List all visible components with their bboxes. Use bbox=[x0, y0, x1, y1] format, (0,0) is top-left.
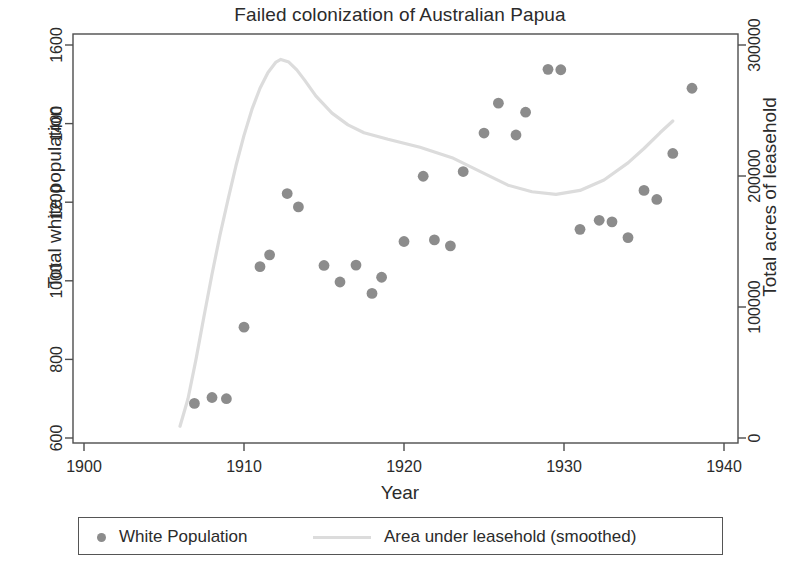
plot-area: 1900191019201930194060080010001200140016… bbox=[0, 0, 800, 563]
data-point bbox=[282, 188, 293, 199]
y-tick-label-left: 800 bbox=[48, 346, 65, 373]
series-line-area-leasehold bbox=[180, 59, 673, 426]
data-point bbox=[376, 272, 387, 283]
data-point bbox=[607, 216, 618, 227]
x-tick-label: 1910 bbox=[226, 458, 262, 475]
data-point bbox=[651, 194, 662, 205]
data-point bbox=[351, 260, 362, 271]
data-point bbox=[445, 240, 456, 251]
x-tick-label: 1940 bbox=[706, 458, 742, 475]
data-point bbox=[667, 148, 678, 159]
legend-item-area-leasehold: Area under leasehold (smoothed) bbox=[313, 518, 636, 556]
data-point bbox=[458, 166, 469, 177]
x-tick-label: 1900 bbox=[66, 458, 102, 475]
y-tick-label-right: 0 bbox=[746, 433, 763, 442]
y-tick-label-left: 600 bbox=[48, 425, 65, 452]
data-point bbox=[239, 322, 250, 333]
data-point bbox=[479, 128, 490, 139]
data-point bbox=[575, 224, 586, 235]
legend: White Population Area under leasehold (s… bbox=[78, 517, 723, 555]
data-point bbox=[189, 398, 200, 409]
legend-line-icon bbox=[313, 536, 371, 539]
data-point bbox=[429, 235, 440, 246]
data-point bbox=[221, 393, 232, 404]
data-point bbox=[207, 392, 218, 403]
data-point bbox=[543, 64, 554, 75]
chart-figure: Failed colonization of Australian Papua … bbox=[0, 0, 800, 563]
data-point bbox=[255, 261, 266, 272]
legend-label-white-population: White Population bbox=[119, 527, 248, 547]
x-tick-label: 1920 bbox=[386, 458, 422, 475]
data-point bbox=[623, 232, 634, 243]
data-point bbox=[367, 288, 378, 299]
legend-dot-icon bbox=[97, 533, 106, 542]
data-point bbox=[293, 202, 304, 213]
data-point bbox=[594, 215, 605, 226]
legend-item-white-population: White Population bbox=[97, 518, 248, 556]
data-point bbox=[399, 236, 410, 247]
x-axis-label: Year bbox=[0, 482, 800, 504]
data-point bbox=[511, 130, 522, 141]
legend-label-area-leasehold: Area under leasehold (smoothed) bbox=[384, 527, 636, 547]
data-point bbox=[418, 171, 429, 182]
data-point bbox=[493, 98, 504, 109]
series-points-white-population bbox=[189, 64, 697, 409]
y-axis-label-left: Total white population bbox=[44, 47, 66, 347]
data-point bbox=[555, 64, 566, 75]
data-point bbox=[520, 107, 531, 118]
x-tick-label: 1930 bbox=[546, 458, 582, 475]
data-point bbox=[335, 277, 346, 288]
data-point bbox=[687, 83, 698, 94]
data-point bbox=[319, 260, 330, 271]
data-point bbox=[264, 249, 275, 260]
y-axis-label-right: Total acres of leasehold bbox=[759, 47, 781, 347]
data-point bbox=[639, 185, 650, 196]
